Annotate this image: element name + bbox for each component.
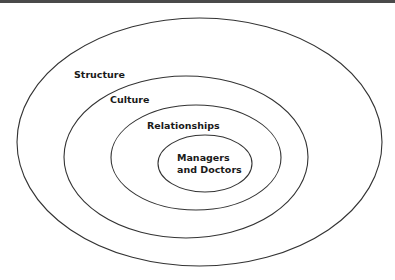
core-label-line-2: and Doctors xyxy=(177,164,242,175)
relationships-label: Relationships xyxy=(147,120,220,131)
structure-label: Structure xyxy=(74,69,125,80)
core-label-line-1: Managers xyxy=(177,152,230,163)
structure-ellipse xyxy=(17,18,382,266)
culture-label: Culture xyxy=(110,94,149,105)
nested-ellipse-diagram: Structure Culture Relationships Managers… xyxy=(0,0,395,280)
